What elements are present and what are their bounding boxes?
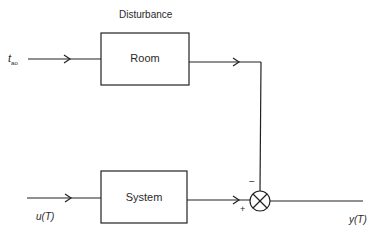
output-label: y(T) [349, 214, 367, 225]
room-block-label: Room [101, 52, 189, 64]
system-block-label: System [101, 191, 187, 203]
disturbance-input-label: tao [8, 52, 18, 66]
control-input-label: u(T) [36, 211, 54, 222]
disturbance-label: Disturbance [119, 9, 172, 20]
room-to-junction-line [260, 62, 261, 191]
disturbance-input-subscript: ao [11, 60, 18, 66]
minus-sign: − [249, 176, 255, 187]
summing-junction-icon [250, 191, 270, 211]
plus-sign: + [240, 204, 245, 214]
block-diagram-canvas [0, 0, 378, 240]
